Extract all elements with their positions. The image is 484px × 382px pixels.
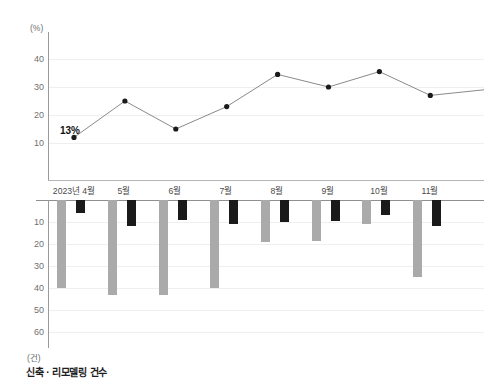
line-marker (173, 126, 178, 131)
month-tick-2: 6월 (169, 184, 182, 196)
bar-new-construction (108, 200, 117, 295)
bar-new-construction (312, 200, 321, 241)
bar-remodeling (127, 200, 136, 226)
line-marker (71, 135, 76, 140)
bar-remodeling (432, 200, 441, 226)
bottom-ytick-50: 50 (22, 305, 44, 315)
month-tick-0: 2023년 4월 (53, 184, 95, 196)
bar-new-construction (413, 200, 422, 277)
bar-new-construction (159, 200, 168, 295)
bar-remodeling (229, 200, 238, 224)
bottom-ytick-60: 60 (22, 327, 44, 337)
line-marker (377, 69, 382, 74)
bar-new-construction (57, 200, 66, 288)
line-marker (428, 93, 433, 98)
month-tick-3: 7월 (220, 184, 233, 196)
bar-remodeling (76, 200, 85, 213)
gridline-bottom-60 (48, 332, 484, 333)
chart-figure: (%) 40 30 20 10 13% 2023년 4월 5월 6월 7월 8월… (0, 0, 484, 382)
month-tick-5: 9월 (322, 184, 335, 196)
line-marker (122, 98, 127, 103)
bar-new-construction (362, 200, 371, 224)
line-marker (326, 84, 331, 89)
bottom-ytick-10: 10 (22, 217, 44, 227)
bar-new-construction (261, 200, 270, 242)
bar-remodeling (280, 200, 289, 222)
bottom-chart-unit-label: (건) (27, 351, 41, 363)
month-tick-7: 11월 (422, 184, 439, 196)
bottom-ytick-30: 30 (22, 261, 44, 271)
gridline-bottom-50 (48, 310, 484, 311)
bar-remodeling (381, 200, 390, 215)
month-tick-6: 10월 (370, 184, 388, 196)
month-tick-4: 8월 (271, 184, 284, 196)
line-path (74, 72, 484, 138)
bar-remodeling (331, 200, 340, 221)
chart-caption: 신축 · 리모델링 건수 (26, 364, 107, 379)
bar-new-construction (210, 200, 219, 288)
bar-remodeling (178, 200, 187, 220)
bottom-ytick-40: 40 (22, 283, 44, 293)
line-marker (275, 72, 280, 77)
line-marker (224, 104, 229, 109)
bottom-ytick-20: 20 (22, 239, 44, 249)
bottom-chart-y-axis (48, 200, 49, 348)
month-tick-1: 5월 (118, 184, 131, 196)
